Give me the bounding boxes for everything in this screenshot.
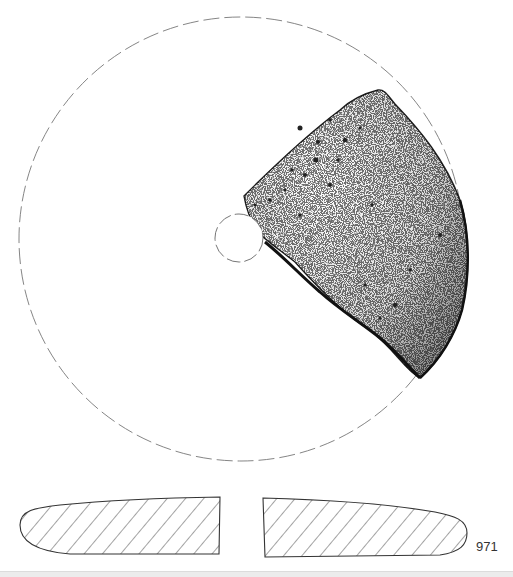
section-profile-right [263,498,467,557]
section-profile-left [20,497,220,554]
stone-fragment [244,90,468,378]
catalog-number: 971 [476,539,498,554]
central-hole-circle [215,214,263,262]
bottom-band [0,571,513,577]
